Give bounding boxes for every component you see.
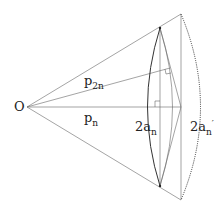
geometry-diagram: O p2n pn 2an 2an′ [0, 0, 220, 211]
diagram-svg [0, 0, 220, 211]
pn-label: pn [84, 111, 98, 128]
outer-ray-top [27, 14, 181, 107]
point-bottom [159, 185, 161, 187]
outer-arc-dotted [181, 14, 201, 200]
2an-label: 2an [135, 120, 157, 137]
outer-ray-bottom [27, 107, 181, 200]
chord-upper [160, 28, 181, 107]
2an-prime-label: 2an′ [190, 120, 214, 137]
p2n-label: p2n [84, 74, 104, 91]
origin-label: O [14, 100, 25, 113]
point-top [159, 27, 161, 29]
chord-lower [160, 107, 181, 186]
right-angle-mark-1 [155, 101, 160, 107]
